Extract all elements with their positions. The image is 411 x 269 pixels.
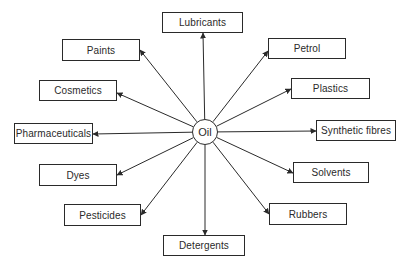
arrow-to-pesticides xyxy=(141,142,197,215)
node-label: Plastics xyxy=(313,83,348,94)
node-label: Petrol xyxy=(294,43,321,54)
node-label: Detergents xyxy=(179,240,229,251)
node-lubricants: Lubricants xyxy=(162,12,243,33)
node-label: Cosmetics xyxy=(54,85,102,96)
arrow-to-dyes xyxy=(117,138,193,175)
arrow-to-rubbers xyxy=(213,142,269,214)
node-pesticides: Pesticides xyxy=(64,204,141,226)
node-pharmaceuticals: Pharmaceuticals xyxy=(14,123,93,144)
arrow-to-pharmaceuticals xyxy=(93,132,192,134)
node-label: Lubricants xyxy=(179,17,226,28)
arrow-to-paints xyxy=(140,50,197,122)
node-solvents: Solvents xyxy=(293,162,369,183)
arrow-to-petrol xyxy=(213,51,268,122)
node-paints: Paints xyxy=(62,39,140,61)
arrow-to-synthetic-fibres xyxy=(218,131,316,132)
arrow-to-solvents xyxy=(217,138,293,174)
node-label: Synthetic fibres xyxy=(321,125,391,136)
node-dyes: Dyes xyxy=(39,164,117,186)
node-cosmetics: Cosmetics xyxy=(39,80,117,101)
node-synthetic-fibres: Synthetic fibres xyxy=(316,120,396,141)
arrow-to-cosmetics xyxy=(117,93,193,127)
node-petrol: Petrol xyxy=(268,38,346,59)
node-plastics: Plastics xyxy=(291,78,370,99)
arrow-to-plastics xyxy=(217,89,291,126)
node-detergents: Detergents xyxy=(163,235,245,256)
node-label: Pesticides xyxy=(79,210,126,221)
node-label: Rubbers xyxy=(289,209,328,220)
arrow-to-lubricants xyxy=(203,33,205,119)
center-node-oil: Oil xyxy=(192,119,218,145)
node-label: Pharmaceuticals xyxy=(16,128,91,139)
node-label: Solvents xyxy=(311,167,350,178)
node-label: Dyes xyxy=(66,170,89,181)
center-label: Oil xyxy=(198,126,211,138)
node-rubbers: Rubbers xyxy=(269,203,347,225)
node-label: Paints xyxy=(87,45,115,56)
